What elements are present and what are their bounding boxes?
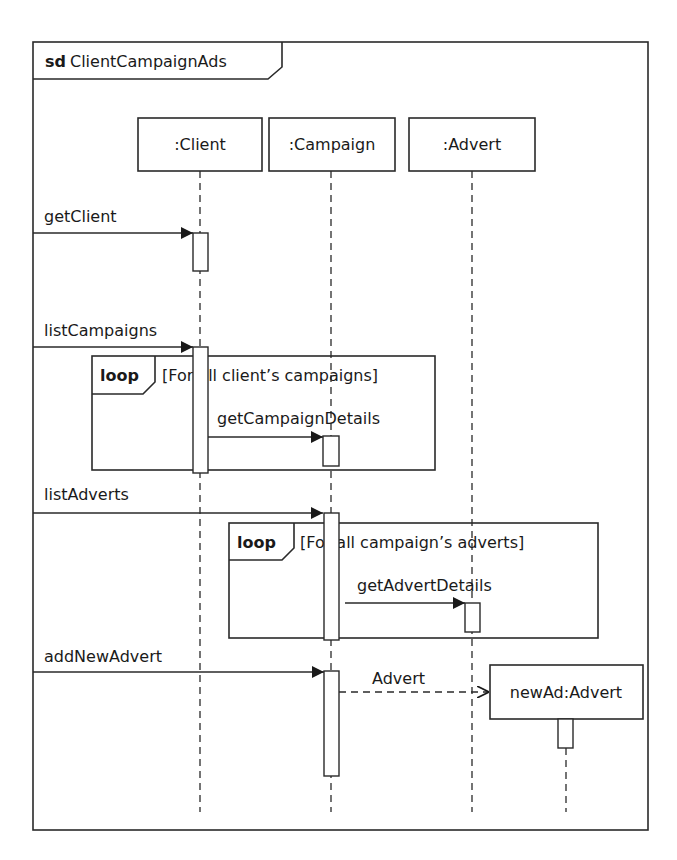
message-getadvertdetails-label: getAdvertDetails [357, 576, 492, 595]
activation-client-2 [193, 347, 208, 473]
frame-title: ClientCampaignAds [70, 52, 227, 71]
activation-client-1 [193, 233, 208, 271]
activation-advert-1 [465, 603, 480, 632]
activation-campaign-3 [324, 671, 339, 776]
lifeline-campaign-label: :Campaign [289, 135, 376, 154]
activation-newad-1 [558, 719, 573, 748]
message-listcampaigns-label: listCampaigns [44, 321, 157, 340]
message-getclient: getClient [33, 207, 193, 233]
lifeline-newad-label: newAd:Advert [510, 683, 622, 702]
lifeline-advert-label: :Advert [443, 135, 501, 154]
lifeline-client-label: :Client [174, 135, 226, 154]
lifeline-newad: newAd:Advert [490, 665, 643, 812]
loop-operator: loop [100, 366, 139, 385]
message-listcampaigns: listCampaigns [33, 321, 193, 347]
sequence-diagram: sd ClientCampaignAds :Client :Campaign :… [0, 0, 677, 860]
activation-campaign-2 [324, 513, 339, 640]
message-addnewadvert: addNewAdvert [33, 647, 324, 672]
loop-operator: loop [237, 533, 276, 552]
message-getcampaigndetails: getCampaignDetails [208, 409, 380, 437]
message-create-advert-label: Advert [372, 669, 425, 688]
message-getcampaigndetails-label: getCampaignDetails [217, 409, 380, 428]
message-getclient-label: getClient [44, 207, 117, 226]
activation-campaign-1 [323, 436, 339, 466]
message-listadverts: listAdverts [33, 485, 323, 513]
message-listadverts-label: listAdverts [44, 485, 129, 504]
message-addnewadvert-label: addNewAdvert [44, 647, 162, 666]
message-create-advert: Advert [339, 669, 489, 692]
frame-keyword: sd [45, 52, 66, 71]
message-getadvertdetails: getAdvertDetails [345, 576, 492, 603]
